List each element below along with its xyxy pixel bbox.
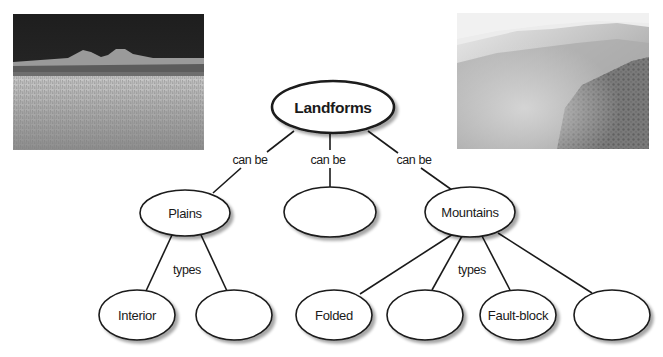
line-landforms-plains-lower [213, 168, 241, 193]
node-mountains-blank-2 [574, 290, 650, 340]
node-mountains-blank-2-ellipse [574, 290, 650, 340]
concept-map: can be can be can be types types Landfor… [0, 0, 663, 357]
node-landforms-label: Landforms [294, 99, 371, 116]
link-label-can-be-plains: can be [232, 153, 268, 167]
node-blank-1 [284, 187, 376, 237]
link-label-mountains-types: types [458, 263, 486, 277]
node-landforms: Landforms [272, 81, 394, 133]
node-plains-blank-ellipse [196, 290, 272, 340]
line-mountains-fault-block [482, 236, 510, 290]
line-landforms-plains [267, 131, 294, 152]
node-blank-1-ellipse [284, 187, 376, 237]
link-label-can-be-blank: can be [310, 153, 346, 167]
node-fault-block: Fault-block [480, 290, 556, 340]
node-mountains-blank-1-ellipse [387, 290, 463, 340]
line-landforms-mountains [368, 131, 398, 153]
line-landforms-mountains-lower [421, 168, 452, 190]
node-fault-block-label: Fault-block [488, 308, 549, 323]
node-folded-label: Folded [315, 308, 353, 323]
node-mountains-label: Mountains [441, 205, 499, 220]
link-label-plains-types: types [173, 263, 201, 277]
line-plains-blank [201, 235, 227, 291]
line-mountains-blank-2 [498, 233, 592, 293]
node-plains: Plains [140, 190, 230, 236]
link-label-can-be-mountains: can be [396, 153, 432, 167]
node-plains-label: Plains [168, 206, 202, 221]
node-folded: Folded [296, 290, 372, 340]
node-plains-blank [196, 290, 272, 340]
node-interior: Interior [99, 290, 175, 340]
line-plains-interior [146, 235, 172, 291]
concept-map-figure: can be can be can be types types Landfor… [0, 0, 663, 357]
node-mountains-blank-1 [387, 290, 463, 340]
node-interior-label: Interior [118, 308, 157, 323]
node-mountains: Mountains [425, 187, 515, 237]
line-mountains-folded [360, 234, 453, 294]
